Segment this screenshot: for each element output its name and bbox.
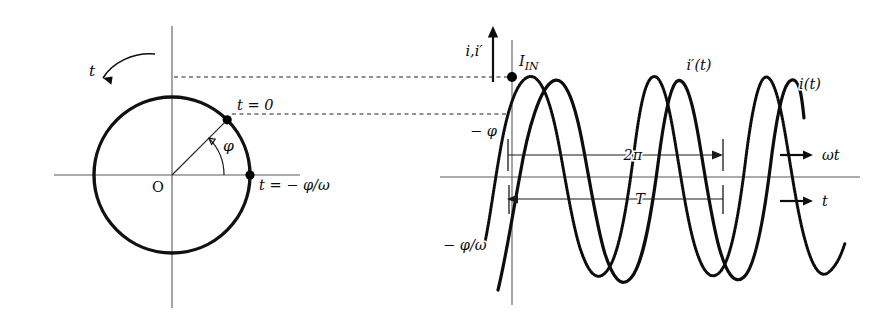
measure-two-pi-group: 2π — [508, 139, 723, 171]
rotation-direction-arc — [103, 54, 155, 78]
point-t-zero-marker — [223, 115, 232, 124]
curve-i-prime — [485, 76, 845, 276]
axis-arrow-t-group: t — [780, 193, 828, 209]
radius-line-to-t0 — [172, 120, 227, 175]
figure-container: t O φ t = 0 t = − φ/ω — [0, 0, 869, 319]
phase-offset-label: − φ — [470, 123, 498, 139]
curve-i — [498, 80, 804, 290]
figure-svg: t O φ t = 0 t = − φ/ω — [0, 0, 869, 319]
curve-label-i: i(t) — [799, 76, 821, 92]
measure-two-pi-arrowhead — [712, 150, 723, 159]
axis-label-t: t — [822, 193, 828, 209]
phase-angle-label: φ — [223, 137, 234, 155]
axis-arrow-t-head — [803, 197, 813, 206]
dashed-connectors-group — [174, 77, 508, 114]
time-offset-label: − φ/ω — [443, 237, 487, 253]
point-t-zero-label: t = 0 — [237, 97, 273, 113]
measure-period-label: T — [635, 191, 646, 207]
point-t-phase-label: t = − φ/ω — [259, 177, 330, 193]
peak-point-marker — [507, 72, 517, 82]
curve-label-i-prime: i′(t) — [686, 57, 711, 73]
point-t-phase-marker — [245, 170, 254, 179]
rotation-direction-arrowhead — [103, 77, 113, 85]
axis-label-omega-t: ωt — [822, 147, 840, 163]
rotation-label: t — [89, 62, 96, 80]
peak-point-label: IIN — [518, 53, 539, 73]
axis-arrow-omega-t-head — [803, 151, 813, 160]
circle-diagram-group: t O φ t = 0 t = − φ/ω — [54, 26, 330, 308]
wave-vertical-axis-label: i,i′ — [465, 43, 483, 59]
measure-period-group: T — [507, 185, 723, 214]
origin-label: O — [152, 179, 164, 195]
wave-vertical-axis-arrowhead — [488, 26, 498, 37]
peak-point-label-subscript: IN — [524, 60, 539, 73]
measure-two-pi-label: 2π — [623, 147, 643, 163]
wave-diagram-group: 2π T ωt t i,i′ — [440, 26, 860, 305]
